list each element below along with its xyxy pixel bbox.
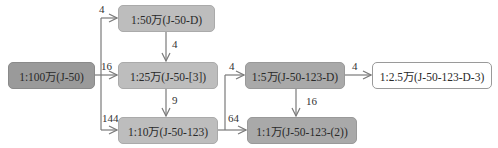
node-1-25w: 1:25万(J-50-[3]) [118, 62, 218, 89]
edge-label: 4 [99, 3, 105, 15]
edge-label: 64 [228, 112, 239, 124]
node-1-1w: 1:1万(J-50-123-(2)) [247, 117, 357, 144]
edge-label: 4 [229, 60, 235, 72]
node-1-2-5w: 1:2.5万(J-50-123-D-3) [372, 62, 492, 89]
edge-label: 4 [352, 60, 358, 72]
node-1-50w: 1:50万(J-50-D) [118, 5, 215, 32]
node-1-100w: 1:100万(J-50) [8, 62, 95, 89]
edge-label: 144 [102, 112, 119, 124]
edge-label: 4 [172, 38, 178, 50]
node-1-10w: 1:10万(J-50-123) [118, 117, 218, 144]
node-1-5w: 1:5万(J-50-123-D) [245, 62, 345, 89]
edge-label: 9 [172, 94, 178, 106]
edge-label: 16 [306, 95, 317, 107]
edge-label: 16 [101, 60, 112, 72]
